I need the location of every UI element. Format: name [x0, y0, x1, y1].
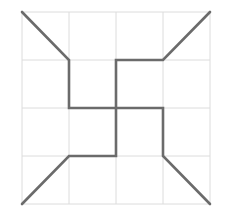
grid-diagram — [0, 0, 225, 208]
